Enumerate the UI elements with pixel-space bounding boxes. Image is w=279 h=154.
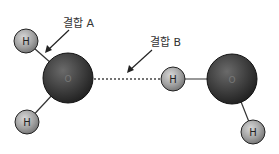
svg-text:O: O (64, 74, 71, 84)
bond-b-arrow-icon (127, 50, 152, 73)
svg-text:O: O (228, 75, 235, 85)
hydrogen-atom-4: H (241, 120, 265, 144)
svg-text:H: H (22, 36, 30, 47)
oxygen-atom-1: O (43, 53, 93, 103)
oxygen-atom-2: O (207, 54, 257, 104)
svg-text:H: H (23, 117, 31, 128)
hydrogen-atom-3: H (161, 67, 185, 91)
bond-a-label: 결합 A (63, 14, 94, 30)
svg-text:H: H (169, 74, 177, 85)
svg-text:H: H (249, 127, 257, 138)
water-hydrogen-bond-diagram: H O H H O H (0, 0, 279, 154)
bond-b-label: 결합 B (150, 33, 181, 49)
hydrogen-atom-2: H (15, 110, 39, 134)
bond-a-arrow-icon (45, 30, 69, 53)
hydrogen-atom-1: H (14, 29, 38, 53)
